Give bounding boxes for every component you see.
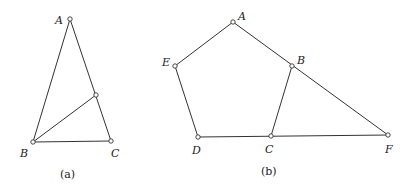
point-a	[68, 17, 72, 21]
label-c: C	[111, 147, 120, 160]
label-d: D	[191, 144, 201, 157]
label-e: E	[161, 56, 170, 69]
label-c: C	[265, 143, 274, 156]
segment-ac	[70, 19, 111, 141]
segment-ab	[33, 19, 70, 142]
label-b: B	[19, 147, 28, 160]
point-b	[290, 64, 294, 68]
figure-a: A B C (a)	[19, 14, 120, 181]
segment-bc	[271, 66, 292, 136]
label-a: A	[237, 10, 246, 23]
segment-bc	[33, 141, 111, 142]
geometry-diagram: A B C (a) A E B D C F (b)	[0, 0, 416, 191]
segment-ae	[175, 22, 233, 66]
point-on-ac	[94, 93, 98, 97]
caption-a: (a)	[60, 168, 75, 181]
figure-b: A E B D C F (b)	[161, 10, 393, 178]
segment-af	[233, 22, 388, 135]
label-b: B	[296, 54, 305, 67]
point-c	[269, 134, 273, 138]
point-c	[109, 139, 113, 143]
point-b	[31, 140, 35, 144]
label-f: F	[384, 143, 393, 156]
point-d	[196, 135, 200, 139]
segment-b-to-ac	[33, 95, 96, 142]
segment-ed	[175, 66, 198, 137]
point-a	[231, 20, 235, 24]
label-a: A	[54, 14, 63, 27]
point-e	[173, 64, 177, 68]
caption-b: (b)	[261, 165, 277, 178]
point-f	[386, 133, 390, 137]
segment-df	[198, 135, 388, 137]
